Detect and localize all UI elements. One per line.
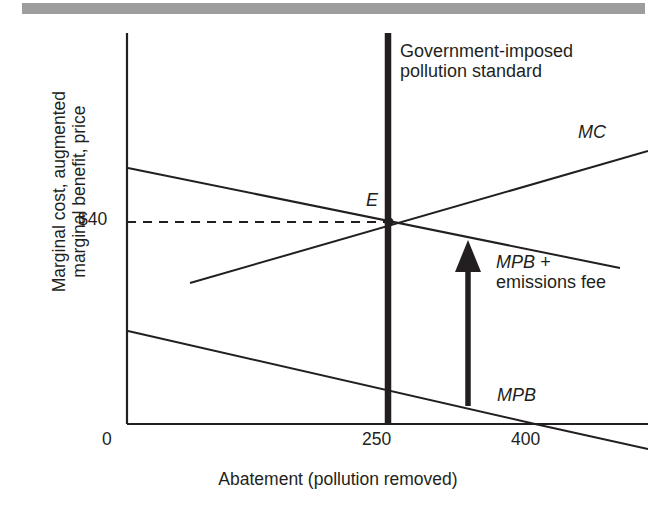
y-axis-title-line1: Marginal cost, augmented	[49, 91, 69, 292]
x-tick-label-0: 0	[102, 430, 112, 450]
pollution-standard-annotation-line2: pollution standard	[400, 61, 542, 81]
pollution-standard-annotation-line1: Government-imposed	[400, 41, 573, 61]
equilibrium-point-label: E	[366, 190, 378, 210]
y-axis-title-line2: marginal benefit, price	[69, 106, 89, 278]
series-label-mpb-plus-fee-line2: emissions fee	[496, 272, 606, 292]
equilibrium-point-marker	[384, 217, 393, 226]
y-axis-title: Marginal cost, augmentedmarginal benefit…	[50, 42, 89, 342]
series-label-mpb-plus-fee-line1: MPB +	[496, 252, 551, 272]
x-axis-title: Abatement (pollution removed)	[128, 470, 548, 490]
figure-container: Marginal cost, augmentedmarginal benefit…	[0, 0, 648, 505]
emissions-fee-arrow-icon	[455, 240, 481, 406]
series-label-mc: MC	[578, 122, 606, 142]
x-tick-label-400: 400	[511, 430, 540, 450]
series-label-mpb-plus-fee: MPB +emissions fee	[496, 252, 606, 292]
series-label-mpb: MPB	[497, 385, 536, 405]
x-tick-label-250: 250	[362, 430, 391, 450]
y-tick-label-40: $40	[78, 210, 107, 230]
pollution-standard-annotation: Government-imposedpollution standard	[400, 41, 573, 81]
